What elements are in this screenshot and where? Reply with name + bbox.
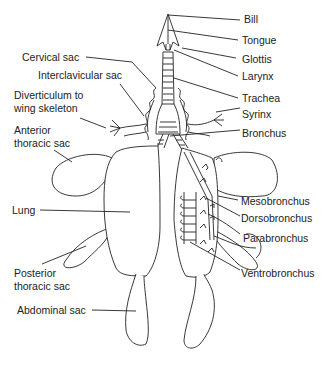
label-parabronchus: Parabronchus — [243, 232, 308, 244]
label-dorsobronchus: Dorsobronchus — [241, 212, 312, 224]
label-mesobronchus: Mesobronchus — [241, 195, 310, 207]
abdominal-sac-right — [184, 274, 214, 348]
anterior-thoracic-sac-right — [214, 152, 277, 196]
label-trachea: Trachea — [242, 92, 280, 104]
label-syrinx: Syrinx — [242, 108, 272, 120]
bill-shape — [157, 14, 179, 50]
bronchus-shape — [157, 134, 188, 150]
label-anterior-line1: Anterior — [14, 124, 51, 136]
label-larynx: Larynx — [242, 70, 274, 82]
abdominal-sac-shape — [126, 274, 149, 345]
label-bill: Bill — [244, 13, 258, 25]
label-ventrobronchus: Ventrobronchus — [241, 267, 315, 279]
posterior-thoracic-sac-shape — [64, 228, 110, 268]
label-lung: Lung — [12, 204, 36, 216]
label-posterior-line1: Posterior — [14, 267, 57, 279]
label-diverticulum-line2: wing skeleton — [13, 102, 78, 114]
label-abdominal-sac: Abdominal sac — [17, 304, 86, 316]
trachea-shape — [162, 52, 174, 104]
label-bronchus: Bronchus — [242, 127, 286, 139]
syrinx-shape — [156, 104, 180, 134]
label-tongue: Tongue — [242, 34, 277, 46]
lung-shape — [104, 146, 160, 276]
label-anterior-line2: thoracic sac — [14, 137, 70, 149]
avian-respiratory-diagram: Bill Tongue Glottis Larynx Trachea Syrin… — [0, 0, 326, 366]
wing-diverticulum-left — [110, 120, 146, 136]
label-interclavicular-sac: Interclavicular sac — [38, 69, 122, 81]
label-cervical-sac: Cervical sac — [22, 51, 79, 63]
label-posterior-line2: thoracic sac — [14, 280, 70, 292]
label-glottis: Glottis — [242, 53, 272, 65]
anterior-thoracic-sac-shape — [52, 154, 112, 196]
label-diverticulum-line1: Diverticulum to — [14, 89, 84, 101]
